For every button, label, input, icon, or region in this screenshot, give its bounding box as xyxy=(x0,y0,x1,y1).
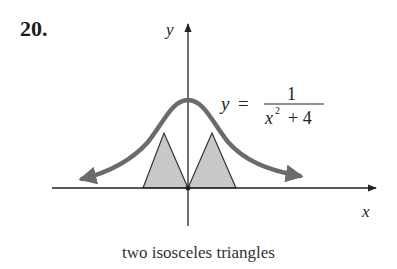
equation: y = 1 x 2 + 4 xyxy=(219,84,324,128)
equation-equals: = xyxy=(238,93,249,114)
graph-figure: y x y = 1 x 2 + 4 xyxy=(0,0,397,269)
equation-denominator-rest: + 4 xyxy=(288,108,312,128)
equation-lhs: y xyxy=(219,93,230,114)
equation-denominator-base: x xyxy=(264,108,273,128)
isosceles-triangles xyxy=(143,133,236,188)
equation-numerator: 1 xyxy=(287,84,296,104)
y-axis-label: y xyxy=(164,20,174,39)
origin-point xyxy=(186,186,191,191)
equation-denominator-exponent: 2 xyxy=(275,105,280,116)
x-axis-label: x xyxy=(361,202,370,221)
figure-caption: two isosceles triangles xyxy=(0,243,397,263)
